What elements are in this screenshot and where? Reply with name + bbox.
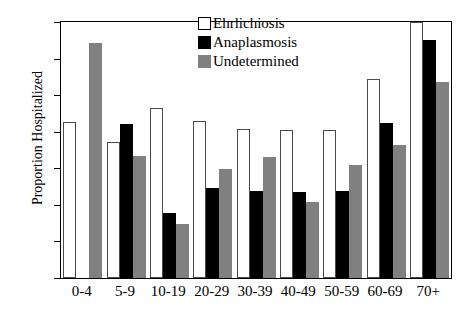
legend-swatch-icon [198, 55, 211, 68]
bar-anaplasmosis-50-59 [336, 191, 349, 278]
bar-undetermined-30-39 [263, 157, 276, 278]
x-axis-tick-label: 20-29 [194, 283, 229, 300]
chart-legend: EhrlichiosisAnaplasmosisUndetermined [198, 14, 299, 71]
bar-anaplasmosis-5-9 [120, 124, 133, 278]
legend-label: Undetermined [213, 54, 299, 69]
bar-undetermined-40-49 [306, 202, 319, 278]
bar-group [63, 22, 102, 278]
x-axis-tick-label: 50-59 [324, 283, 359, 300]
x-axis-tick-label: 70+ [417, 283, 440, 300]
bar-ehrlichiosis-5-9 [107, 142, 120, 278]
y-axis-title: Proportion Hospitalized [30, 13, 46, 263]
x-axis-tick-label: 0-4 [72, 283, 92, 300]
y-axis-tick [54, 241, 61, 242]
bar-ehrlichiosis-60-69 [367, 79, 380, 278]
bar-anaplasmosis-30-39 [250, 191, 263, 278]
legend-label: Ehrlichiosis [213, 16, 285, 31]
legend-item: Ehrlichiosis [198, 14, 299, 32]
y-axis-tick [54, 132, 61, 133]
bar-ehrlichiosis-10-19 [150, 108, 163, 278]
chart-figure: Proportion Hospitalized 010203040506070 … [0, 0, 458, 315]
y-axis-tick [54, 205, 61, 206]
legend-swatch-icon [198, 17, 211, 30]
bar-anaplasmosis-60-69 [380, 123, 393, 278]
x-axis-tick-label: 40-49 [281, 283, 316, 300]
x-axis-tick-label: 5-9 [115, 283, 135, 300]
bar-ehrlichiosis-50-59 [323, 130, 336, 278]
bar-undetermined-0-4 [89, 43, 102, 278]
bar-ehrlichiosis-20-29 [193, 121, 206, 278]
bar-ehrlichiosis-40-49 [280, 130, 293, 278]
bar-group [107, 22, 146, 278]
legend-swatch-icon [198, 36, 211, 49]
y-axis-tick [54, 22, 61, 23]
bar-group [150, 22, 189, 278]
bar-undetermined-20-29 [219, 169, 232, 278]
y-axis-tick [54, 168, 61, 169]
bar-anaplasmosis-70+ [423, 40, 436, 278]
bar-group [367, 22, 406, 278]
bar-ehrlichiosis-30-39 [237, 129, 250, 278]
bar-undetermined-5-9 [133, 156, 146, 278]
bar-anaplasmosis-40-49 [293, 192, 306, 278]
bar-group [323, 22, 362, 278]
legend-item: Anaplasmosis [198, 33, 299, 51]
x-axis-tick-label: 60-69 [368, 283, 403, 300]
bar-ehrlichiosis-0-4 [63, 122, 76, 278]
bar-group [410, 22, 449, 278]
bar-undetermined-70+ [436, 82, 449, 278]
y-axis-tick [54, 95, 61, 96]
bar-undetermined-10-19 [176, 224, 189, 278]
bar-undetermined-50-59 [349, 165, 362, 278]
y-axis-tick [54, 278, 61, 279]
bar-anaplasmosis-10-19 [163, 213, 176, 278]
bar-ehrlichiosis-70+ [410, 22, 423, 278]
bar-undetermined-60-69 [393, 145, 406, 278]
legend-label: Anaplasmosis [213, 35, 297, 50]
bar-anaplasmosis-20-29 [206, 188, 219, 278]
x-axis-tick-label: 30-39 [238, 283, 273, 300]
x-axis-tick-label: 10-19 [151, 283, 186, 300]
y-axis-tick [54, 59, 61, 60]
legend-item: Undetermined [198, 52, 299, 70]
